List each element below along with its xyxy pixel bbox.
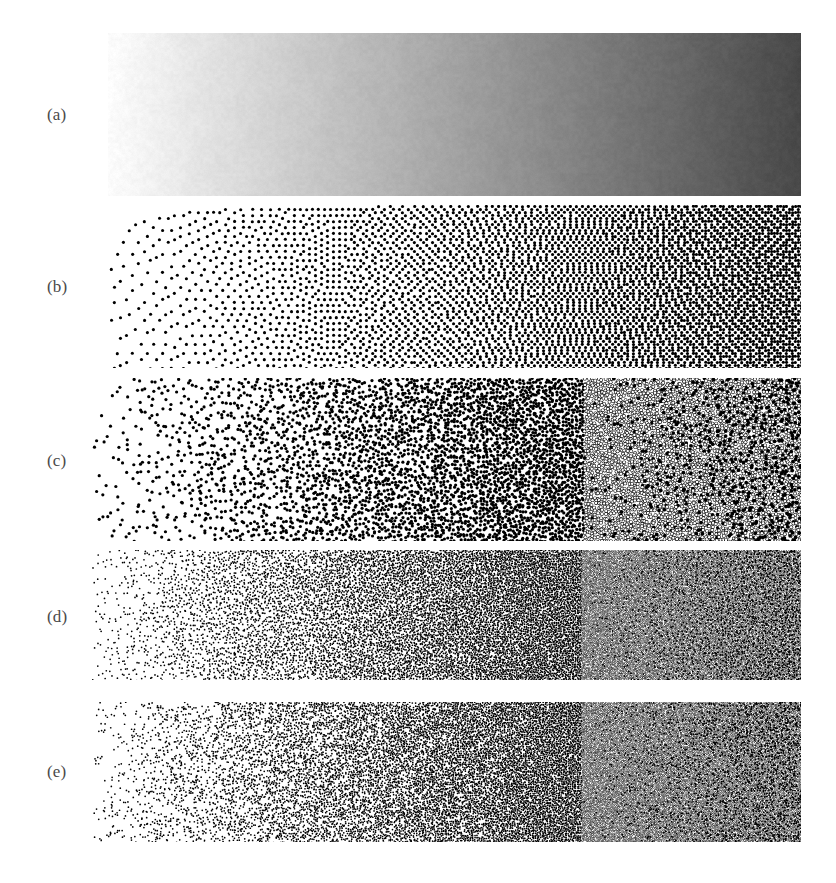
panel-label-e: (e) [47,763,66,780]
panel-blue-noise-stipple-fine [92,550,801,680]
panel-canvas-error-diffusion-dither [92,205,801,368]
panel-canvas-blue-noise-stipple-fine [92,550,801,680]
panel-continuous-tone-ramp [108,33,801,196]
dithering-comparison-figure: (a)(b)(c)(d)(e) [0,0,836,883]
panel-canvas-continuous-tone-ramp [108,33,801,196]
panel-label-c: (c) [47,452,66,469]
panel-canvas-white-noise-stipple-fine [92,702,801,842]
panel-error-diffusion-dither [92,205,801,368]
panel-blue-noise-stipple-coarse [92,378,801,541]
panel-label-b: (b) [47,278,67,295]
panel-label-d: (d) [47,608,67,625]
panel-white-noise-stipple-fine [92,702,801,842]
panel-canvas-blue-noise-stipple-coarse [92,378,801,541]
panel-label-a: (a) [47,106,66,123]
